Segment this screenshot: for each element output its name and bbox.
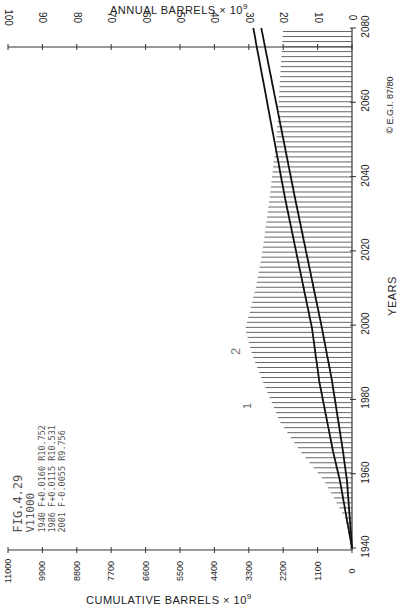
annual-production-hatch bbox=[246, 32, 352, 548]
cumulative-curve-2 bbox=[261, 28, 352, 548]
cumulative-curve-1 bbox=[253, 28, 352, 548]
chart-plot-area bbox=[0, 0, 406, 609]
